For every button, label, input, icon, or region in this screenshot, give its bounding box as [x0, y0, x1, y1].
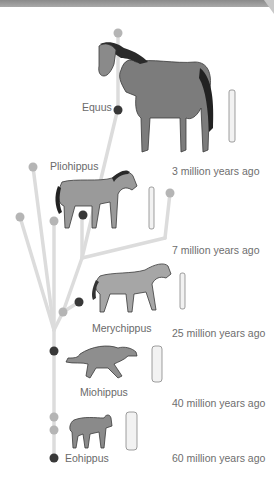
- node-merychippus: [75, 298, 84, 307]
- label-merychippus: Merychippus: [92, 322, 152, 334]
- eohippus-illustration: [70, 412, 137, 450]
- node-miohippus: [50, 347, 59, 356]
- pliohippus-illustration: [55, 170, 154, 229]
- extinct-node: [50, 426, 59, 435]
- node-eohippus: [50, 454, 59, 463]
- label-pliohippus: Pliohippus: [50, 160, 98, 172]
- extinct-node: [29, 163, 38, 172]
- time-25mya: 25 million years ago: [172, 327, 265, 339]
- miohippus-illustration: [66, 346, 162, 382]
- extinct-node: [50, 413, 59, 422]
- label-eohippus: Eohippus: [65, 452, 109, 464]
- time-3mya: 3 million years ago: [172, 165, 260, 177]
- time-60mya: 60 million years ago: [172, 452, 265, 464]
- extinct-node: [50, 217, 59, 226]
- merychippus-leg-bone: [180, 273, 185, 309]
- extinct-node: [114, 29, 123, 38]
- pliohippus-leg-bone: [149, 187, 154, 229]
- extinct-node: [59, 308, 68, 317]
- label-miohippus: Miohippus: [80, 386, 128, 398]
- extinct-node: [166, 189, 175, 198]
- extinct-node: [16, 213, 25, 222]
- miohippus-foot-bone: [152, 346, 162, 382]
- label-equus: Equus: [82, 101, 112, 113]
- node-equus: [114, 106, 123, 115]
- merychippus-illustration: [92, 264, 185, 312]
- time-7mya: 7 million years ago: [172, 244, 260, 256]
- node-pliohippus: [79, 211, 88, 220]
- eohippus-foot-bone: [126, 412, 137, 450]
- time-40mya: 40 million years ago: [172, 397, 265, 409]
- equus-leg-bone: [229, 90, 235, 142]
